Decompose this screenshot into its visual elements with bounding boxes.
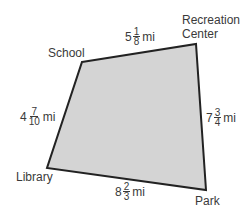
unit: mi	[223, 111, 236, 125]
label-library: Library	[16, 171, 53, 184]
label-recreation-line2: Center	[182, 28, 218, 41]
denominator: 8	[133, 37, 141, 46]
whole: 7	[206, 111, 213, 125]
fraction: 1 8	[133, 27, 141, 46]
unit: mi	[142, 30, 155, 44]
label-school: School	[48, 47, 85, 60]
fraction: 7 10	[28, 107, 41, 126]
unit: mi	[43, 110, 56, 124]
whole: 8	[115, 185, 122, 199]
side-school-recreation: 5 1 8 mi	[125, 27, 155, 46]
whole: 4	[20, 110, 27, 124]
side-park-library: 8 2 3 mi	[115, 182, 145, 201]
fraction: 2 3	[123, 182, 131, 201]
fraction: 3 4	[214, 108, 222, 127]
side-library-school: 4 7 10 mi	[20, 107, 55, 126]
denominator: 10	[28, 117, 41, 126]
label-park: Park	[195, 195, 220, 208]
side-recreation-park: 7 3 4 mi	[206, 108, 236, 127]
whole: 5	[125, 30, 132, 44]
denominator: 3	[123, 192, 131, 201]
denominator: 4	[214, 118, 222, 127]
unit: mi	[132, 185, 145, 199]
label-recreation-line1: Recreation	[182, 14, 240, 27]
